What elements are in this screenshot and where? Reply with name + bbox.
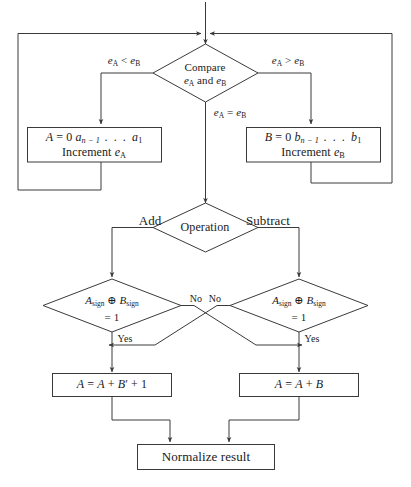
result-sub-plus2: + 1 [128, 377, 147, 391]
result-add-op2: B [316, 377, 323, 391]
node-result-sub-label: A = A + B′ + 1 [77, 378, 147, 391]
result-sub-eq: = [84, 377, 97, 391]
node-align-b-line1: B = 0 bn − 1 . . . b1 [265, 131, 361, 145]
node-operation-label: Operation [181, 221, 230, 234]
result-sub-op1: A [97, 377, 104, 391]
node-align-a-line2: Increment eA [62, 146, 126, 160]
align-b-bits-sub: n − 1 [301, 136, 319, 145]
edge-label-yes-left: Yes [118, 333, 133, 344]
align-a-eq: = 0 [53, 130, 75, 144]
node-result-add-label: A = A + B [275, 378, 323, 391]
edge-label-e-a-equal-e-b: eA = eB [214, 106, 246, 120]
flowchart-canvas: Compare eA and eB eA < eB eA > eB eA = e… [0, 0, 411, 487]
node-compare-label-line1: Compare [184, 61, 225, 73]
edge-operation-to-sign-left [112, 228, 153, 278]
align-b-ellipsis: . . . [319, 130, 351, 144]
align-a-increment: Increment [62, 145, 115, 159]
e-equal-op: = [224, 106, 236, 118]
sign-right-a-sub: sign [279, 299, 291, 308]
edge-label-e-a-greater-e-b: eA > eB [272, 54, 304, 68]
compare-and: and [194, 74, 216, 86]
sign-left-b-sub: sign [126, 299, 138, 308]
result-add-plus1: + [303, 377, 316, 391]
align-a-exp-sub: A [120, 151, 126, 160]
align-b-increment: Increment [281, 145, 334, 159]
edge-label-add: Add [139, 214, 162, 229]
result-sub-plus1: + [105, 377, 118, 391]
align-a-ellipsis: . . . [100, 130, 132, 144]
sign-left-a-sub: sign [92, 299, 104, 308]
edge-label-e-a-less-e-b: eA < eB [108, 54, 140, 68]
sign-right-b-sub: sign [313, 299, 325, 308]
sign-left-a: A [85, 294, 92, 306]
align-a-lastbit-sub: 1 [138, 136, 142, 145]
e-equal-rhs-sub: B [241, 111, 246, 120]
edge-label-yes-right: Yes [305, 333, 320, 344]
sign-right-a: A [272, 294, 279, 306]
edge-label-no-left: No [190, 293, 202, 304]
compare-e-b-sub: B [221, 79, 226, 88]
edge-label-subtract: Subtract [246, 214, 290, 229]
edge-compare-to-align-a [101, 73, 153, 124]
edge-compare-to-align-b [258, 73, 311, 124]
e-less-rhs-sub: B [135, 59, 140, 68]
edge-operation-to-sign-right [258, 228, 299, 278]
edge-result-sub-to-normalize [112, 397, 170, 443]
edge-label-no-right: No [209, 293, 221, 304]
node-align-a-line1: A = 0 an − 1 . . . a1 [46, 131, 142, 145]
e-less-op: < [118, 54, 130, 66]
node-compare-label-line2: eA and eB [184, 74, 226, 88]
sign-right-xor-icon: ⊕ [291, 294, 306, 306]
sign-left-xor-icon: ⊕ [104, 294, 119, 306]
align-a-bits-sub: n − 1 [82, 136, 100, 145]
e-greater-rhs-sub: B [299, 59, 304, 68]
edge-result-add-to-normalize [229, 397, 299, 443]
node-sign-check-left-line1: Asign ⊕ Bsign [85, 294, 139, 308]
e-greater-op: > [282, 54, 294, 66]
node-sign-check-left-line2: = 1 [105, 311, 120, 323]
align-b-lastbit-sub: 1 [357, 136, 361, 145]
result-add-op1: A [295, 377, 302, 391]
result-add-eq: = [282, 377, 295, 391]
node-normalize-label: Normalize result [162, 450, 251, 465]
align-b-eq: = 0 [272, 130, 294, 144]
node-align-b-line2: Increment eB [281, 146, 345, 160]
node-sign-check-right-line2: = 1 [292, 311, 307, 323]
align-b-exp-sub: B [339, 151, 344, 160]
node-sign-check-right-line1: Asign ⊕ Bsign [272, 294, 326, 308]
